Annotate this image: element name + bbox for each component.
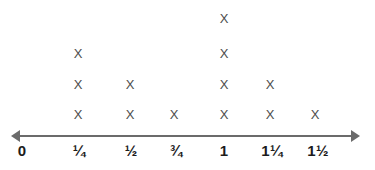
- tick-label-3: ¾: [170, 142, 183, 160]
- mark-x: X: [266, 78, 275, 91]
- tick-label-0: 0: [18, 142, 27, 160]
- dot-plot-number-line-chart: 0 ¼ ½ ¾ 1 1¼ 1½ XXXXXXXXXXXXX: [0, 0, 375, 170]
- tick-label-4: 1: [220, 142, 229, 160]
- tick-label-1: ¼: [73, 142, 86, 160]
- axis-arrow-left-icon: [11, 130, 20, 142]
- mark-x: X: [74, 78, 83, 91]
- mark-x: X: [74, 47, 83, 60]
- mark-x: X: [311, 108, 320, 121]
- tick-label-6: 1½: [307, 142, 328, 160]
- tick-label-5: 1¼: [261, 142, 282, 160]
- mark-x: X: [220, 78, 229, 91]
- mark-x: X: [170, 108, 179, 121]
- mark-x: X: [266, 108, 275, 121]
- mark-x: X: [220, 12, 229, 25]
- mark-x: X: [126, 78, 135, 91]
- mark-x: X: [74, 108, 83, 121]
- number-line-axis: [18, 135, 357, 137]
- mark-x: X: [220, 108, 229, 121]
- mark-x: X: [126, 108, 135, 121]
- mark-x: X: [220, 47, 229, 60]
- tick-label-2: ½: [125, 142, 138, 160]
- axis-arrow-right-icon: [351, 130, 360, 142]
